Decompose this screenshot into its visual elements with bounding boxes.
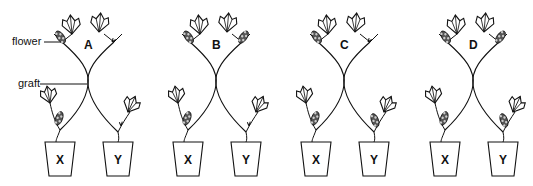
pot-label-y: Y (242, 153, 250, 167)
flower-cluster-icon (309, 111, 320, 127)
stem (312, 130, 316, 142)
branch (118, 112, 130, 132)
pot-label-x: X (184, 153, 192, 167)
stem (374, 132, 375, 142)
flower-cluster-icon (53, 111, 64, 127)
panel-label-d: D (469, 38, 478, 52)
stem (445, 42, 473, 130)
leaf-icon (346, 12, 366, 32)
stem (473, 42, 503, 132)
panel-b (167, 12, 271, 176)
stem (441, 130, 445, 142)
flower-cluster-icon (182, 29, 196, 44)
stem (118, 132, 119, 142)
panel-label-b: B (212, 38, 221, 52)
pot-label-x: X (441, 153, 449, 167)
flower-label: flower (12, 35, 41, 47)
panel-label-a: A (84, 38, 93, 52)
pot-label-y: Y (499, 153, 507, 167)
panel-c (295, 12, 399, 176)
stem (246, 132, 247, 142)
leaf-icon (249, 93, 271, 115)
stem (188, 42, 216, 130)
pot-label-x: X (312, 153, 320, 167)
stem (88, 42, 118, 132)
panel-label-c: C (340, 38, 349, 52)
leaf-icon (39, 85, 58, 105)
grafting-diagram (0, 0, 533, 186)
graft-label: graft (18, 77, 40, 89)
leaf-icon (121, 93, 143, 115)
leaf-icon (90, 12, 110, 32)
leaf-icon (377, 93, 399, 115)
leaf-icon (218, 12, 238, 32)
leaf-icon (446, 14, 466, 34)
leaf-icon (506, 93, 528, 115)
panel-a (39, 12, 143, 176)
flower-cluster-icon (310, 29, 324, 44)
branch (246, 112, 258, 132)
stem (184, 130, 188, 142)
pot-label-y: Y (370, 153, 378, 167)
leaf-icon (475, 12, 495, 32)
pot-label-y: Y (114, 153, 122, 167)
leaf-icon (317, 14, 337, 34)
leaf-icon (295, 85, 314, 105)
flower-cluster-icon (498, 113, 509, 129)
flower-cluster-icon (439, 29, 453, 44)
stem (344, 42, 374, 132)
pot-label-x: X (56, 153, 64, 167)
flower-cluster-icon (369, 113, 380, 129)
flower-cluster-icon (54, 29, 68, 44)
flower-cluster-icon (494, 29, 508, 44)
leaf-icon (167, 85, 186, 105)
leaf-icon (424, 85, 443, 105)
leaf-icon (61, 14, 81, 34)
stem (56, 130, 60, 142)
leaf-icon (189, 14, 209, 34)
stem (216, 42, 246, 132)
panel-d (424, 12, 528, 176)
flower-cluster-icon (438, 111, 449, 127)
stem (60, 42, 88, 130)
stem (503, 132, 504, 142)
stem (316, 42, 344, 130)
flower-cluster-icon (237, 29, 251, 44)
flower-cluster-icon (181, 111, 192, 127)
